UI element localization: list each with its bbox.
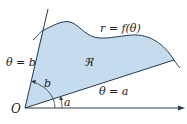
region-label: ℜ	[84, 56, 94, 69]
angle-a-label: a	[64, 96, 71, 109]
diagram-canvas: r = f(θ) ℜ θ = b θ = a b a O	[0, 0, 187, 124]
axis-arrowhead-icon	[178, 106, 185, 111]
curve-label: r = f(θ)	[100, 22, 141, 35]
ray-b-label: θ = b	[6, 56, 36, 69]
origin-label: O	[11, 102, 21, 116]
ray-a-label: θ = a	[99, 85, 128, 98]
polar-region-diagram: r = f(θ) ℜ θ = b θ = a b a O	[0, 0, 187, 124]
angle-b-label: b	[44, 77, 51, 90]
